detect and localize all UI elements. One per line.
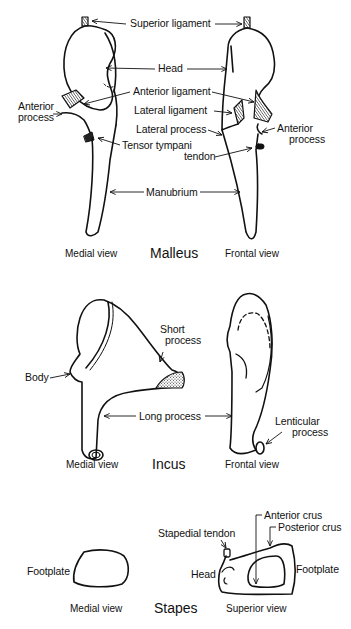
label-long-process: Long process <box>139 411 201 422</box>
label-short-process-2: process <box>165 335 201 346</box>
label-footplate-right: Footplate <box>296 564 339 575</box>
incus-frontal-drawing <box>227 293 272 454</box>
malleus-frontal-drawing <box>222 17 275 239</box>
label-anterior-process-left-2: process <box>6 112 54 123</box>
incus-frontal-view-caption: Frontal view <box>225 459 279 470</box>
malleus-title: Malleus <box>150 246 198 261</box>
label-anterior-crus: Anterior crus <box>264 510 322 521</box>
label-tensor-tympani-1: Tensor tympani <box>122 140 192 151</box>
label-body: Body <box>25 372 49 383</box>
stapes-superior-drawing <box>219 544 295 595</box>
stapes-title: Stapes <box>154 601 198 616</box>
incus-medial-view-caption: Medial view <box>66 459 118 470</box>
stapes-medial-view-caption: Medial view <box>70 603 122 614</box>
label-tensor-tympani-2: tendon <box>184 151 216 162</box>
malleus-medial-drawing <box>62 17 117 236</box>
label-footplate-left: Footplate <box>27 566 70 577</box>
malleus-medial-view-caption: Medial view <box>65 248 117 259</box>
label-superior-ligament: Superior ligament <box>130 18 211 29</box>
label-posterior-crus: Posterior crus <box>278 522 341 533</box>
label-anterior-process-right-2: process <box>289 134 325 145</box>
label-anterior-ligament: Anterior ligament <box>133 86 211 97</box>
label-lateral-process: Lateral process <box>136 124 206 135</box>
label-lenticular-process-2: process <box>292 427 328 438</box>
label-head-malleus: Head <box>158 63 183 74</box>
label-lateral-ligament: Lateral ligament <box>134 105 207 116</box>
stapes-medial-drawing <box>74 550 129 587</box>
label-head-stapes: Head <box>191 569 216 580</box>
incus-title: Incus <box>152 457 185 472</box>
label-manubrium: Manubrium <box>146 187 198 198</box>
stapes-superior-view-caption: Superior view <box>226 603 287 614</box>
ossicles-diagram: Superior ligament Head Anterior ligament… <box>0 0 351 629</box>
label-stapedial-tendon: Stapedial tendon <box>158 528 235 539</box>
malleus-frontal-view-caption: Frontal view <box>225 248 279 259</box>
